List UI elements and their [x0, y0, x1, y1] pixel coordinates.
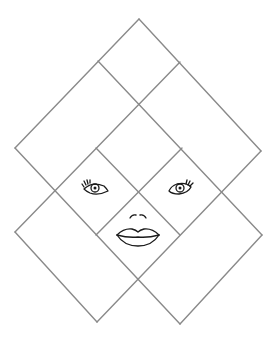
grid-line-F: [15, 62, 180, 232]
nose-icon: [130, 215, 146, 218]
diamond-grid: [15, 19, 262, 324]
grid-line-E: [15, 19, 139, 148]
left-eye-icon: [82, 180, 108, 194]
right-eye-icon: [169, 180, 193, 194]
diamond-face-diagram: [0, 0, 277, 344]
grid-line-J: [15, 232, 97, 322]
lips-icon: [117, 229, 159, 246]
grid-line-I: [180, 235, 262, 324]
